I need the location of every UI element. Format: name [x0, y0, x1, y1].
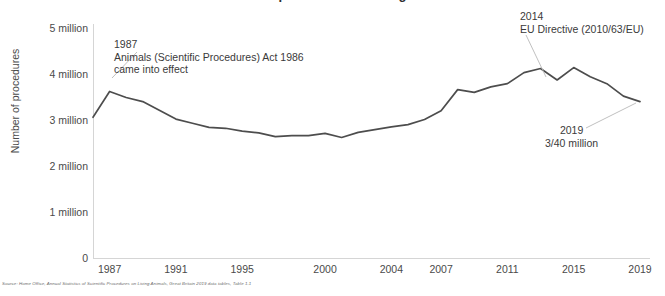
chart-title-text: Number of scientific procedures on livin… — [150, 0, 458, 2]
x-axis-tick-4: 2004 — [380, 263, 403, 275]
annotation-2019: 2019 3/40 million — [545, 124, 598, 149]
chart-title-clipped: Number of scientific procedures on livin… — [0, 0, 665, 6]
y-axis-tick-1: 4 million — [2, 68, 88, 80]
chart-page: Number of scientific procedures on livin… — [0, 0, 665, 296]
y-axis-tick-2: 3 million — [2, 114, 88, 126]
leader-line-2014 — [526, 35, 546, 77]
x-axis-tick-7: 2015 — [562, 263, 585, 275]
x-axis-tick-6: 2011 — [496, 263, 519, 275]
x-axis-tick-2: 1995 — [230, 263, 253, 275]
annotation-1987: 1987 Animals (Scientific Procedures) Act… — [114, 38, 304, 76]
y-axis-tick-0: 5 million — [2, 22, 88, 34]
annotation-2019-line-1: 2019 — [545, 124, 598, 137]
y-axis-line — [93, 24, 94, 258]
x-axis-tick-3: 2000 — [313, 263, 336, 275]
x-axis-tick-1: 1991 — [164, 263, 187, 275]
x-axis-line — [93, 258, 650, 259]
x-axis-tick-5: 2007 — [429, 263, 452, 275]
y-axis-tick-labels: 5 million4 million3 million2 million1 mi… — [0, 0, 88, 296]
y-axis-tick-4: 1 million — [2, 206, 88, 218]
y-axis-tick-5: 0 — [2, 252, 88, 264]
annotation-1987-line-1: 1987 — [114, 38, 304, 51]
annotation-2014-line-2: EU Directive (2010/63/EU) — [520, 23, 644, 36]
source-note: Source: Home Office, Annual Statistics o… — [2, 281, 251, 286]
annotation-2014: 2014 EU Directive (2010/63/EU) — [520, 10, 644, 35]
x-axis-tick-0: 1987 — [98, 263, 121, 275]
annotation-1987-line-3: came into effect — [114, 63, 304, 76]
annotation-2014-line-1: 2014 — [520, 10, 644, 23]
annotation-1987-line-2: Animals (Scientific Procedures) Act 1986 — [114, 51, 304, 64]
y-axis-tick-3: 2 million — [2, 160, 88, 172]
x-axis-tick-8: 2019 — [628, 263, 651, 275]
annotation-2019-line-2: 3/40 million — [545, 137, 598, 150]
